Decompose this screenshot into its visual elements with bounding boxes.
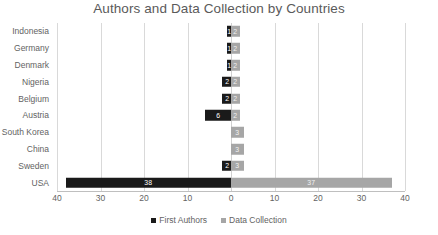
bar-data-collection: 2: [231, 77, 240, 88]
bar-row: 12: [57, 26, 405, 37]
bar-value-label: 2: [233, 112, 237, 119]
bar-data-collection: 3: [231, 144, 244, 155]
bar-row: 03: [57, 144, 405, 155]
bar-first-authors: 6: [205, 110, 231, 121]
x-axis-tick: 10: [183, 193, 192, 203]
bar-row: 23: [57, 161, 405, 172]
x-axis-line: [57, 191, 405, 192]
bar-value-label: 2: [225, 78, 229, 85]
bar-data-collection: 2: [231, 110, 240, 121]
y-axis-label-indonesia: Indonesia: [12, 26, 49, 36]
bar-data-collection: 2: [231, 60, 240, 71]
bar-value-label: 2: [233, 28, 237, 35]
x-axis-tick: 0: [229, 193, 234, 203]
y-axis-label-nigeria: Nigeria: [22, 77, 49, 87]
legend-label: First Authors: [159, 215, 207, 225]
x-axis-tick: 40: [400, 193, 409, 203]
gridline: [405, 23, 406, 191]
y-axis-label-belgium: Belgium: [18, 94, 49, 104]
bars-layer: 1212122222620303233837: [57, 23, 405, 191]
bar-row: 62: [57, 110, 405, 121]
x-axis-tick: 30: [357, 193, 366, 203]
x-axis-tick: 30: [96, 193, 105, 203]
bar-value-label: 2: [225, 162, 229, 169]
bar-data-collection: 37: [231, 177, 392, 188]
y-axis-label-germany: Germany: [14, 43, 49, 53]
legend-swatch-icon: [151, 218, 156, 223]
bar-value-label: 2: [233, 62, 237, 69]
y-axis-label-sweden: Sweden: [18, 161, 49, 171]
chart-container: Authors and Data Collection by Countries…: [0, 0, 438, 235]
plot-area: 1212122222620303233837: [57, 23, 405, 191]
y-axis-category-labels: IndonesiaGermanyDenmarkNigeriaBelgiumAus…: [0, 23, 53, 191]
y-axis-label-usa: USA: [32, 178, 49, 188]
bar-value-label: 2: [233, 45, 237, 52]
bar-first-authors: 2: [222, 161, 231, 172]
x-axis-tick-labels: 40302010010203040: [57, 193, 405, 207]
legend-item-data-collection[interactable]: Data Collection: [221, 215, 287, 225]
x-axis-tick: 10: [270, 193, 279, 203]
bar-value-label: 2: [233, 78, 237, 85]
bar-value-label: 3: [236, 162, 240, 169]
bar-data-collection: 2: [231, 26, 240, 37]
bar-value-label: 38: [144, 179, 152, 186]
x-axis-tick: 20: [313, 193, 322, 203]
chart-legend: First AuthorsData Collection: [0, 215, 438, 225]
x-axis-tick: 40: [52, 193, 61, 203]
bar-value-label: 2: [233, 95, 237, 102]
bar-first-authors: 2: [222, 77, 231, 88]
bar-value-label: 37: [308, 179, 316, 186]
y-axis-label-austria: Austria: [23, 110, 49, 120]
bar-data-collection: 3: [231, 127, 244, 138]
bar-data-collection: 3: [231, 161, 244, 172]
legend-item-first-authors[interactable]: First Authors: [151, 215, 207, 225]
bar-first-authors: 2: [222, 93, 231, 104]
y-axis-label-china: China: [27, 144, 49, 154]
bar-value-label: 3: [236, 146, 240, 153]
legend-swatch-icon: [221, 218, 226, 223]
bar-first-authors: 38: [66, 177, 231, 188]
x-axis-tick: 20: [139, 193, 148, 203]
bar-value-label: 6: [216, 112, 220, 119]
bar-row: 22: [57, 93, 405, 104]
bar-data-collection: 2: [231, 43, 240, 54]
bar-row: 3837: [57, 177, 405, 188]
y-axis-label-south-korea: South Korea: [2, 127, 49, 137]
bar-value-label: 3: [236, 129, 240, 136]
bar-value-label: 2: [225, 95, 229, 102]
bar-data-collection: 2: [231, 93, 240, 104]
bar-row: 12: [57, 43, 405, 54]
bar-row: 22: [57, 77, 405, 88]
chart-title: Authors and Data Collection by Countries: [0, 1, 438, 16]
bar-row: 12: [57, 60, 405, 71]
bar-row: 03: [57, 127, 405, 138]
y-axis-label-denmark: Denmark: [15, 60, 49, 70]
legend-label: Data Collection: [229, 215, 287, 225]
